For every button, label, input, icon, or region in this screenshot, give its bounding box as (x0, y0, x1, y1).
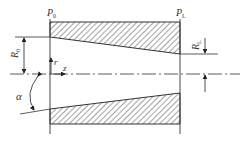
taper-extension-line (20, 109, 50, 114)
svg-text:L: L (196, 40, 202, 44)
alpha-arc (30, 76, 38, 110)
p0-label: P 0 (46, 7, 56, 19)
z-axis-label: z (62, 63, 67, 73)
r0-label: R 0 (9, 49, 21, 59)
r-axis-label: r (54, 57, 58, 67)
tapered-bore-diagram: R 0 R L P 0 P L r z α (0, 0, 247, 144)
rl-label: R L (190, 40, 202, 51)
pl-label: P L (175, 7, 186, 19)
lower-wall-hatch (50, 93, 180, 124)
svg-text:L: L (182, 13, 186, 19)
alpha-label: α (16, 90, 22, 102)
upper-wall-hatch (50, 22, 180, 54)
svg-text:0: 0 (15, 49, 21, 52)
svg-text:0: 0 (53, 13, 56, 19)
